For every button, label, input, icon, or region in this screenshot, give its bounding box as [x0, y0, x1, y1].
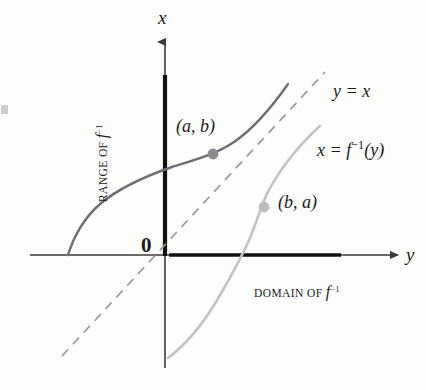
identity-line — [62, 72, 325, 356]
point-ba-label: (b, a) — [278, 193, 317, 211]
y-axis-label: y — [406, 245, 414, 264]
range-label-exponent: −1 — [95, 124, 104, 133]
domain-label-exponent: −1 — [331, 285, 340, 294]
inverse-function-figure: x y 0 RANGE OF f−1 (a, b) (b, a) y = x x… — [0, 0, 426, 390]
inverse-equation-suffix: (y) — [364, 140, 384, 160]
inverse-equation-label: x = f−1(y) — [317, 139, 384, 159]
origin-label: 0 — [141, 235, 152, 256]
range-label-symbol: f — [93, 133, 110, 138]
inverse-equation-prefix: x = — [317, 140, 346, 160]
range-label-text: RANGE OF — [97, 138, 109, 202]
point-ab-label: (a, b) — [176, 117, 215, 135]
domain-of-f-inverse-label: DOMAIN OF f−1 — [254, 284, 340, 300]
point-ba-marker — [259, 202, 270, 213]
point-ab-marker — [208, 149, 219, 160]
x-axis-label: x — [158, 8, 166, 27]
domain-label-text: DOMAIN OF — [254, 287, 326, 299]
identity-line-label: y = x — [333, 82, 370, 100]
figure-canvas — [0, 0, 426, 390]
range-of-f-inverse-label: RANGE OF f−1 — [94, 124, 110, 202]
inverse-equation-exponent: −1 — [351, 138, 364, 152]
